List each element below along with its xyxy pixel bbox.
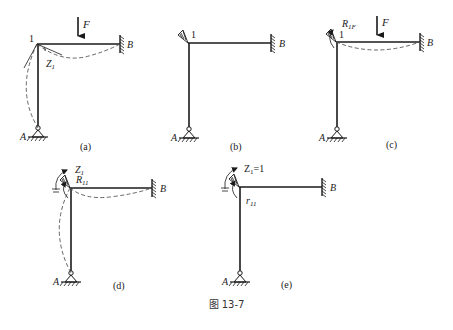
deflected-column-line: [26, 44, 38, 128]
fixed-support-icon: [420, 33, 424, 52]
fixed-end-label: B: [427, 37, 433, 48]
rotational-restraint-icon: [326, 29, 336, 42]
joint-label: 1: [191, 29, 196, 40]
panel-label: (b): [230, 141, 242, 153]
panel-label: (e): [281, 279, 292, 291]
fixed-end-label: B: [330, 182, 336, 193]
pin-support-icon: [60, 271, 81, 286]
frame-displacement-method-figure: F 1 B A Z1 (a) 1 B A (b) F 1 R1F B A (c): [0, 0, 453, 330]
fixed-support-icon: [271, 34, 275, 53]
panel-c: F 1 R1F B A (c): [318, 16, 433, 151]
pin-label: A: [221, 276, 229, 287]
stiffness-coefficient-label: r11: [246, 195, 256, 208]
rotational-restraint-icon: [178, 30, 188, 43]
panel-label: (c): [386, 139, 397, 151]
figure-caption: 图 13-7: [0, 296, 453, 311]
pin-support-icon: [178, 127, 199, 142]
fixed-end-label: B: [160, 183, 166, 194]
pin-support-icon: [326, 127, 347, 142]
pin-label: A: [170, 132, 178, 143]
fixed-support-icon: [120, 35, 124, 54]
deflected-beam-line: [37, 44, 120, 58]
pin-support-icon: [27, 126, 48, 141]
pin-label: A: [52, 276, 60, 287]
panel-label: (d): [113, 280, 125, 292]
fixed-end-label: B: [127, 39, 133, 50]
panel-a: F 1 B A Z1 (a): [19, 17, 133, 153]
load-label: F: [381, 16, 389, 28]
rotation-label: Z1: [46, 58, 55, 71]
pin-label: A: [19, 131, 27, 142]
fixed-support-icon: [152, 179, 156, 198]
pin-support-icon: [229, 271, 250, 286]
deflected-beam-line: [70, 188, 152, 198]
rotation-tangent-beam: [37, 44, 62, 55]
panel-label: (a): [80, 141, 91, 153]
joint-label: 1: [339, 29, 344, 40]
reaction-label: R11: [75, 174, 89, 187]
joint-label: 1: [29, 33, 34, 44]
pin-label: A: [318, 132, 326, 143]
panel-d: Z1 R11 B A (d): [52, 164, 166, 292]
panel-b: 1 B A (b): [170, 29, 285, 153]
rotation-tangent-column: [24, 44, 37, 68]
rotational-restraint-icon: [229, 174, 239, 187]
deflected-beam-line: [336, 42, 420, 50]
deflected-column-line: [59, 188, 71, 273]
fixed-end-label: B: [279, 38, 285, 49]
load-label: F: [82, 18, 90, 30]
fixed-support-icon: [322, 178, 326, 197]
rotation-label: Z1=1: [244, 163, 264, 176]
rotational-restraint-icon: [60, 175, 70, 188]
panel-e: Z1=1 r11 B A (e): [221, 163, 336, 291]
